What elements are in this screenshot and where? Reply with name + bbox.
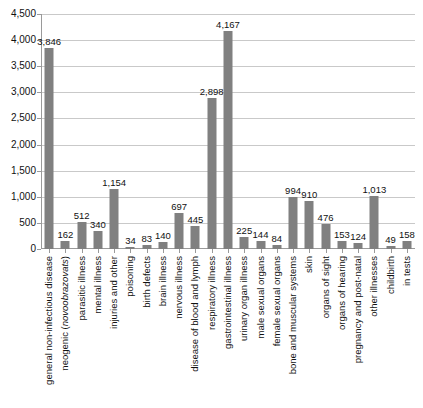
x-tick-mark	[65, 249, 66, 253]
bar[interactable]	[305, 201, 314, 249]
x-tick-mark	[114, 249, 115, 253]
x-tick-mark	[358, 249, 359, 253]
bar[interactable]	[240, 237, 249, 249]
x-tick-label: disease of blood and lymph	[190, 256, 200, 372]
bar[interactable]	[289, 197, 298, 249]
bar-value-label: 144	[253, 230, 269, 240]
bar-series: 3,8461625123401,15434831406974452,8984,1…	[41, 14, 415, 249]
y-tick-label: 3,000	[11, 87, 36, 97]
bar-slot: 1,154	[106, 14, 122, 249]
bar-slot: 140	[155, 14, 171, 249]
bar-slot: 476	[317, 14, 333, 249]
x-tick-label: in tests	[402, 256, 412, 286]
x-tick-label: injuries and other	[109, 256, 119, 329]
bar-slot: 158	[399, 14, 415, 249]
y-tick-label: 2,500	[11, 113, 36, 123]
bar[interactable]	[370, 196, 379, 249]
x-tick-label: neogenic (novoobrazovats)	[60, 256, 70, 371]
y-tick-label: 1,000	[11, 192, 36, 202]
x-tick-label: gastrointestinal illness	[223, 256, 233, 349]
x-tick-label: respiratory illness	[207, 256, 217, 330]
bar[interactable]	[223, 31, 232, 249]
bar[interactable]	[402, 241, 411, 249]
x-tick-label: brain illness	[158, 256, 168, 306]
x-tick-mark	[277, 249, 278, 253]
y-axis: 05001,0001,5002,0002,5003,0003,5004,0004…	[0, 0, 41, 249]
bar[interactable]	[77, 222, 86, 249]
x-tick-label: parasitic illness	[77, 256, 87, 320]
x-tick-mark	[293, 249, 294, 253]
x-tick-mark	[49, 249, 50, 253]
x-tick-mark	[163, 249, 164, 253]
bar-slot: 2,898	[204, 14, 220, 249]
y-tick-label: 4,500	[11, 9, 36, 19]
bar-slot: 124	[350, 14, 366, 249]
y-tick-label: 2,000	[11, 140, 36, 150]
bar-slot: 994	[285, 14, 301, 249]
x-tick-mark	[228, 249, 229, 253]
x-tick-mark	[407, 249, 408, 253]
x-tick-mark	[391, 249, 392, 253]
bar-value-label: 34	[125, 236, 136, 246]
bar-slot: 83	[139, 14, 155, 249]
bar-value-label: 49	[385, 235, 396, 245]
bar-slot: 225	[236, 14, 252, 249]
bar[interactable]	[321, 224, 330, 249]
bar-value-label: 225	[236, 226, 252, 236]
bar-value-label: 83	[141, 234, 152, 244]
bar-value-label: 162	[57, 230, 73, 240]
x-axis: general non-infectious diseaseneogenic (…	[41, 249, 415, 408]
bar-value-label: 153	[334, 230, 350, 240]
x-tick-label: general non-infectious disease	[44, 256, 54, 385]
y-tick-label: 4,000	[11, 35, 36, 45]
bar[interactable]	[158, 242, 167, 249]
x-tick-mark	[195, 249, 196, 253]
bar-slot: 162	[57, 14, 73, 249]
bar-value-label: 140	[155, 231, 171, 241]
bar-slot: 340	[90, 14, 106, 249]
x-tick-mark	[98, 249, 99, 253]
bar-slot: 34	[122, 14, 138, 249]
x-tick-mark	[82, 249, 83, 253]
bar[interactable]	[191, 226, 200, 249]
y-tick-label: 1,500	[11, 166, 36, 176]
bar-value-label: 445	[188, 215, 204, 225]
x-tick-mark	[244, 249, 245, 253]
y-tick-label: 3,500	[11, 61, 36, 71]
bar[interactable]	[175, 213, 184, 249]
bar[interactable]	[207, 98, 216, 249]
bar[interactable]	[61, 241, 70, 249]
bar-slot: 3,846	[41, 14, 57, 249]
bar-chart: 05001,0001,5002,0002,5003,0003,5004,0004…	[0, 0, 423, 408]
x-tick-mark	[212, 249, 213, 253]
x-tick-label: poisoning	[125, 256, 135, 297]
bar-slot: 910	[301, 14, 317, 249]
x-tick-label: nervous illness	[174, 256, 184, 319]
x-tick-label: female sexual organs	[272, 256, 282, 346]
bar-slot: 445	[187, 14, 203, 249]
bar-slot: 144	[252, 14, 268, 249]
bar[interactable]	[110, 189, 119, 249]
x-tick-label: bone and muscular systems	[288, 256, 298, 374]
bar-value-label: 476	[318, 213, 334, 223]
bar[interactable]	[337, 241, 346, 249]
x-tick-mark	[130, 249, 131, 253]
x-tick-mark	[179, 249, 180, 253]
x-tick-mark	[261, 249, 262, 253]
bar-value-label: 512	[74, 211, 90, 221]
y-tick-label: 0	[30, 244, 36, 254]
bar-value-label: 124	[350, 232, 366, 242]
x-tick-mark	[309, 249, 310, 253]
bar-slot: 49	[382, 14, 398, 249]
bar[interactable]	[93, 231, 102, 249]
bar-slot: 4,167	[220, 14, 236, 249]
x-tick-label: childbirth	[386, 256, 396, 294]
bar-value-label: 84	[271, 234, 282, 244]
bar[interactable]	[45, 48, 54, 249]
x-tick-label: urinary organ illness	[239, 256, 249, 341]
bar-slot: 697	[171, 14, 187, 249]
x-tick-mark	[147, 249, 148, 253]
bar[interactable]	[256, 241, 265, 249]
x-tick-label: organs of hearing	[337, 256, 347, 330]
bar-value-label: 340	[90, 220, 106, 230]
